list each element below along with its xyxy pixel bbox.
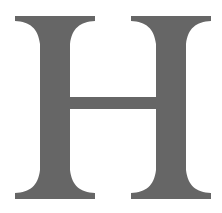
serif-h-glyph xyxy=(0,0,222,213)
letter-canvas: H xyxy=(0,0,222,213)
